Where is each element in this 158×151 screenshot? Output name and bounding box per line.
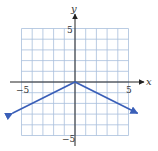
x-axis-label: x — [146, 76, 152, 87]
x-tick-neg5: −5 — [16, 85, 30, 95]
x-tick-pos5: 5 — [126, 85, 132, 95]
y-tick-neg5: −5 — [62, 134, 76, 144]
y-axis-label: y — [70, 3, 77, 14]
graph-chart: x y −5 5 5 −5 — [0, 0, 158, 151]
y-tick-pos5: 5 — [67, 25, 73, 35]
